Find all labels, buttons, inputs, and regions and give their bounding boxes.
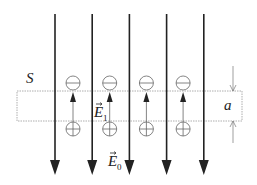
arrow-down-icon xyxy=(199,160,209,175)
arrow-up-icon xyxy=(143,92,149,102)
positive-charge-icon xyxy=(103,122,117,136)
positive-charge-icon xyxy=(139,122,153,136)
internal-field-arrow xyxy=(70,92,76,122)
negative-charge-icon xyxy=(66,76,80,90)
negative-charge-icon xyxy=(139,76,153,90)
negative-charge-icon xyxy=(103,76,117,90)
arrow-up-icon xyxy=(70,92,76,102)
arrow-up-icon xyxy=(180,92,186,102)
dipole xyxy=(103,76,117,136)
dipole xyxy=(139,76,153,136)
thickness-label: a xyxy=(224,97,232,113)
arrow-down-icon xyxy=(87,160,97,175)
internal-field-arrow xyxy=(143,92,149,122)
external-field-line xyxy=(87,14,97,175)
arrow-up-icon xyxy=(107,92,113,102)
dielectric-slab-diagram: S a E 1 E 0 xyxy=(0,0,257,185)
arrow-down-icon xyxy=(162,160,172,175)
external-field-line xyxy=(124,14,134,175)
positive-charge-icon xyxy=(66,122,80,136)
external-field-line xyxy=(199,14,209,175)
arrow-down-icon xyxy=(50,160,60,175)
dipole xyxy=(176,76,190,136)
inner-field-label: E 1 xyxy=(93,103,108,124)
positive-charge-icon xyxy=(176,122,190,136)
surface-label: S xyxy=(26,70,34,86)
svg-text:E: E xyxy=(93,104,103,120)
internal-field-arrow xyxy=(180,92,186,122)
dipole xyxy=(66,76,80,136)
svg-text:1: 1 xyxy=(103,113,108,123)
external-field-line xyxy=(50,14,60,175)
svg-text:E: E xyxy=(107,153,117,169)
outer-field-label: E 0 xyxy=(107,152,122,173)
arrow-down-icon xyxy=(124,160,134,175)
external-field-line xyxy=(162,14,172,175)
internal-field-arrow xyxy=(107,92,113,122)
svg-text:0: 0 xyxy=(117,162,122,172)
negative-charge-icon xyxy=(176,76,190,90)
